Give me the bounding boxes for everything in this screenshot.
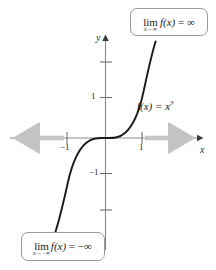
function-argument: (x) bbox=[163, 16, 175, 28]
limit-operator-negative: lim x→−∞ bbox=[34, 241, 49, 252]
cartesian-plot bbox=[0, 0, 216, 270]
callout-limit-negative-infinity: lim x→−∞ f(x) = −∞ bbox=[21, 232, 105, 261]
limit-body-negative: f(x) = −∞ bbox=[51, 241, 92, 252]
limit-expression-positive: lim x→∞ f(x) = ∞ bbox=[143, 17, 195, 28]
limit-result: = ∞ bbox=[178, 16, 195, 28]
limit-operator-positive: lim x→∞ bbox=[143, 17, 158, 28]
y-tick-label-plus-1: 1 bbox=[91, 91, 96, 101]
x-axis-label: x bbox=[200, 144, 204, 155]
function-argument: (x) bbox=[54, 240, 66, 252]
limit-subscript: x→∞ bbox=[144, 26, 157, 32]
x-tick-label-minus-1: −1 bbox=[60, 142, 70, 152]
callout-limit-positive-infinity: lim x→∞ f(x) = ∞ bbox=[130, 8, 208, 36]
limit-graph-figure: f(x) = x3 x y −1 1 1 −1 lim x→∞ f(x) = ∞… bbox=[0, 0, 216, 270]
curve-equation-label: f(x) = x3 bbox=[137, 99, 174, 112]
y-axis-label: y bbox=[96, 32, 100, 43]
limit-result: = −∞ bbox=[69, 240, 92, 252]
curve-equation-text: f(x) = x bbox=[137, 100, 170, 112]
x-tick-label-plus-1: 1 bbox=[139, 142, 144, 152]
limit-body-positive: f(x) = ∞ bbox=[160, 17, 195, 28]
curve-equation-exponent: 3 bbox=[170, 99, 174, 107]
limit-expression-negative: lim x→−∞ f(x) = −∞ bbox=[34, 241, 92, 252]
y-tick-label-minus-1: −1 bbox=[89, 167, 99, 177]
limit-subscript: x→−∞ bbox=[33, 250, 50, 256]
